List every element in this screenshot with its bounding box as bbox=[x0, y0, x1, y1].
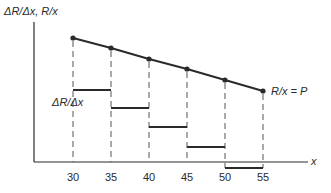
line-label: R/x = P bbox=[271, 85, 308, 97]
x-tick-labels: 303540455055 bbox=[67, 171, 269, 183]
data-point bbox=[146, 56, 151, 61]
x-axis-label: x bbox=[310, 155, 317, 167]
x-tick-label: 35 bbox=[105, 171, 117, 183]
ratio-line bbox=[70, 35, 265, 93]
ratio-polyline bbox=[73, 38, 263, 91]
y-axis-label: ΔR/Δx, R/x bbox=[3, 5, 58, 17]
x-tick-label: 50 bbox=[219, 171, 231, 183]
data-point bbox=[260, 88, 265, 93]
data-point bbox=[184, 66, 189, 71]
data-point bbox=[70, 35, 75, 40]
data-point bbox=[108, 45, 113, 50]
step-label: ΔR/Δx bbox=[51, 96, 84, 108]
x-tick-label: 30 bbox=[67, 171, 79, 183]
x-tick-label: 45 bbox=[181, 171, 193, 183]
dashed-guides bbox=[73, 41, 263, 168]
x-tick-label: 40 bbox=[143, 171, 155, 183]
data-point bbox=[222, 77, 227, 82]
chart-svg: ΔR/Δx, R/x x 303540455055 R/x = P ΔR/Δx bbox=[0, 0, 331, 193]
x-tick-label: 55 bbox=[257, 171, 269, 183]
step-segments bbox=[73, 90, 263, 168]
